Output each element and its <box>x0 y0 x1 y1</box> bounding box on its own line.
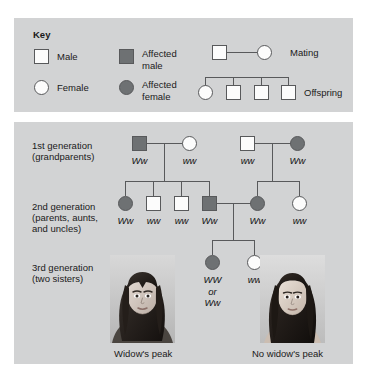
key-offspring-child-2 <box>226 85 241 100</box>
gen3-individual-1 <box>205 255 220 270</box>
gen2-descent-line <box>233 203 234 240</box>
gen1-genotype-3: ww <box>232 155 263 167</box>
key-label-affected-female: Affected female <box>142 79 177 102</box>
gen3-genotype-1: WW or Ww <box>197 274 228 309</box>
gen2-genotype-4: Ww <box>194 215 225 227</box>
gen2-individual-4 <box>202 196 217 211</box>
key-mating-female <box>257 45 272 60</box>
gen2-drop-5 <box>257 181 258 196</box>
gen2-drop-3 <box>181 181 182 196</box>
gen2-genotype-1: Ww <box>110 215 141 227</box>
gen2-label-line2: (parents, aunts, <box>32 212 98 224</box>
key-label-male: Male <box>57 51 78 63</box>
key-label-mating: Mating <box>290 47 319 59</box>
gen2-label-line3: and uncles) <box>32 223 81 235</box>
key-mating-male <box>212 45 227 60</box>
key-offspring-child-1 <box>198 85 213 100</box>
key-mating-connector <box>226 52 258 53</box>
gen2-drop-2 <box>153 181 154 196</box>
key-symbol-female <box>34 80 49 95</box>
gen1-descent-right <box>272 143 273 181</box>
gen1-individual-2 <box>182 136 197 151</box>
key-symbol-affected-male <box>119 49 134 64</box>
gen2-genotype-6: ww <box>284 215 315 227</box>
key-symbol-male <box>34 49 49 64</box>
gen2-genotype-3: ww <box>166 215 197 227</box>
key-offspring-sibline <box>205 77 289 78</box>
gen2-sibline-right <box>257 181 300 182</box>
gen3-sibline <box>212 240 255 241</box>
gen2-genotype-2: ww <box>138 215 169 227</box>
key-offspring-child-3 <box>254 85 269 100</box>
gen1-genotype-1: Ww <box>124 155 155 167</box>
gen2-individual-3 <box>174 196 189 211</box>
key-label-affected-male: Affected male <box>142 48 177 71</box>
gen3-drop-1 <box>212 240 213 255</box>
photo-left-caption: Widow's peak <box>114 348 172 360</box>
gen3-label-line1: 3rd generation <box>32 262 93 274</box>
pedigree-figure: Key Male Affected male Female Affected f… <box>0 0 367 382</box>
gen1-genotype-2: ww <box>174 155 205 167</box>
gen1-individual-1 <box>132 136 147 151</box>
photo-right-caption: No widow's peak <box>252 348 323 360</box>
gen2-drop-6 <box>299 181 300 196</box>
gen1-genotype-4: Ww <box>282 155 313 167</box>
photo-left <box>110 255 175 343</box>
key-panel: Key Male Affected male Female Affected f… <box>14 18 353 112</box>
gen2-individual-1 <box>118 196 133 211</box>
gen2-drop-4 <box>209 181 210 196</box>
key-offspring-child-4 <box>281 85 296 100</box>
gen1-individual-3 <box>240 136 255 151</box>
gen2-label-line1: 2nd generation <box>32 201 95 213</box>
portrait-unaffected-sister <box>260 255 325 343</box>
portrait-affected-sister <box>110 255 175 343</box>
gen3-label-line2: (two sisters) <box>32 273 83 285</box>
gen2-individual-5 <box>250 196 265 211</box>
key-label-female: Female <box>57 82 89 94</box>
photo-right <box>260 255 325 343</box>
key-label-offspring: Offspring <box>304 87 342 99</box>
gen2-individual-6 <box>292 196 307 211</box>
gen2-genotype-5: Ww <box>242 215 273 227</box>
pedigree-panel: 1st generation (grandparents) 2nd genera… <box>14 122 353 364</box>
gen3-drop-2 <box>254 240 255 255</box>
key-symbol-affected-female <box>119 80 134 95</box>
key-title: Key <box>33 29 50 41</box>
gen2-sibline-left <box>125 181 210 182</box>
gen1-label-line1: 1st generation <box>32 140 92 152</box>
gen2-drop-1 <box>125 181 126 196</box>
gen1-individual-4 <box>290 136 305 151</box>
gen2-individual-2 <box>146 196 161 211</box>
gen1-label-line2: (grandparents) <box>32 151 94 163</box>
gen1-descent-left <box>164 143 165 181</box>
